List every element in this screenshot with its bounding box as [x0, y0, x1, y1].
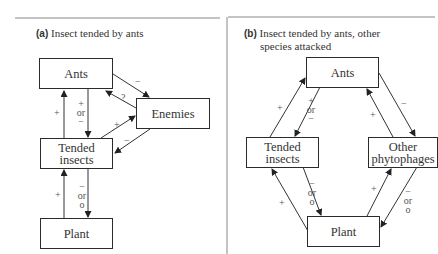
node-a-plant-label: Plant	[64, 228, 90, 240]
node-a-tended-insects: Tended insects	[40, 138, 113, 169]
arrow-b-plant-to-tended	[272, 169, 308, 231]
node-a-plant: Plant	[40, 218, 113, 249]
label-a-ants-to-tended: + or −	[75, 99, 87, 126]
node-a-ants: Ants	[39, 58, 113, 89]
label-b-tended-to-plant-3: o	[306, 197, 318, 206]
label-b-other-to-plant-3: o	[402, 205, 414, 214]
arrow-a-ants-to-enemies	[113, 74, 149, 97]
panel-a-tag: (a)	[36, 28, 48, 39]
panel-a-title-text: Insect tended by ants	[51, 27, 144, 39]
node-b-tended-label-1: Tended	[264, 141, 301, 153]
node-b-ants-label: Ants	[331, 67, 355, 79]
node-b-ants: Ants	[306, 57, 379, 88]
label-a-enemies-to-ants: ?	[121, 93, 125, 102]
label-b-tended-to-ants: +	[277, 103, 283, 112]
label-b-other-to-ants: +	[370, 110, 376, 119]
label-a-tended-to-enemies: +	[114, 120, 120, 129]
node-b-tended-insects: Tended insects	[246, 137, 319, 168]
label-b-ants-to-tended: + or −	[305, 96, 317, 123]
panel-b-tag: (b)	[244, 28, 257, 39]
label-a-ants-to-enemies: −	[135, 77, 141, 86]
node-b-plant: Plant	[307, 216, 380, 247]
node-b-other-label-2: phytophages	[371, 153, 434, 165]
label-a-tended-to-plant: − or o	[76, 182, 88, 209]
node-a-tended-label-1: Tended	[58, 142, 95, 154]
node-b-other-label-1: Other	[389, 141, 417, 153]
panel-b-title: (b) Insect tended by ants, other species…	[244, 27, 380, 52]
node-a-tended-label-2: insects	[59, 154, 93, 166]
label-b-tended-to-plant: − or o	[306, 179, 318, 206]
arrow-a-enemies-to-tended	[115, 129, 150, 153]
panel-b-title-line2: species attacked	[244, 40, 380, 52]
panel-b-title-line1: Insect tended by ants, other	[260, 27, 381, 39]
arrow-b-tended-to-ants	[270, 78, 305, 137]
node-a-ants-label: Ants	[64, 68, 88, 80]
label-a-tended-to-plant-3: o	[76, 200, 88, 209]
label-b-plant-to-tended: +	[279, 198, 285, 207]
label-a-tended-to-ants: +	[54, 108, 60, 117]
node-b-tended-label-2: insects	[265, 153, 299, 165]
node-b-other-phytophages: Other phytophages	[368, 137, 438, 168]
node-a-enemies-label: Enemies	[151, 108, 194, 120]
label-b-plant-to-other: +	[371, 184, 377, 193]
node-a-enemies: Enemies	[136, 98, 210, 129]
label-b-other-to-plant: − or o	[402, 187, 414, 214]
panel-a-title: (a) Insect tended by ants	[36, 27, 144, 40]
label-a-plant-to-tended: +	[55, 190, 61, 199]
arrow-b-ants-to-other	[379, 73, 415, 136]
label-b-ants-to-tended-3: −	[305, 114, 317, 123]
label-b-ants-to-other: −	[401, 99, 407, 108]
label-a-ants-to-tended-3: −	[75, 117, 87, 126]
label-a-enemies-to-tended: −	[124, 136, 130, 145]
node-b-plant-label: Plant	[331, 226, 357, 238]
